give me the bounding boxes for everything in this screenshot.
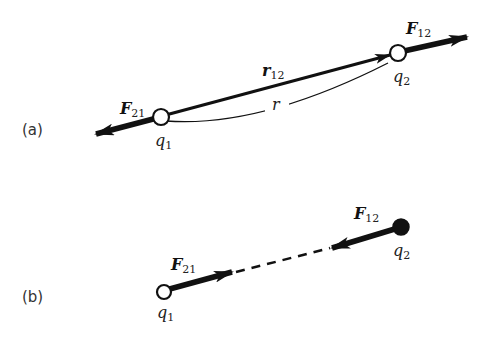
coulomb-force-diagram: (a) F21 F12 r12 r q1 q2 (b) (0, 0, 491, 340)
force-arrow-f12-b (332, 228, 398, 248)
f21-label: F21 (119, 99, 145, 120)
panel-b: (b) F21 F12 q1 q2 (22, 204, 410, 324)
q2-label-b: q2 (393, 241, 410, 262)
f12-label-b: F12 (353, 204, 379, 225)
q1-label-b: q1 (157, 303, 174, 324)
charge-q1 (153, 109, 169, 125)
force-arrow-f21-b (166, 272, 232, 290)
f21-label-b: F21 (170, 255, 196, 276)
r12-label: r12 (262, 61, 284, 82)
charge-q1-b (157, 285, 171, 299)
q2-label-a: q2 (393, 67, 410, 88)
panel-a: (a) F21 F12 r12 r q1 q2 (22, 19, 467, 152)
charge-q2 (390, 45, 406, 61)
panel-b-label: (b) (22, 288, 43, 306)
force-arrow-f12 (404, 37, 467, 51)
r-label: r (272, 95, 281, 114)
q1-label-a: q1 (155, 131, 172, 152)
connecting-dashed-line (236, 248, 330, 272)
charge-q2-b (393, 219, 409, 235)
panel-a-label: (a) (22, 121, 43, 139)
f12-label: F12 (405, 19, 431, 40)
force-arrow-f21 (96, 118, 157, 134)
